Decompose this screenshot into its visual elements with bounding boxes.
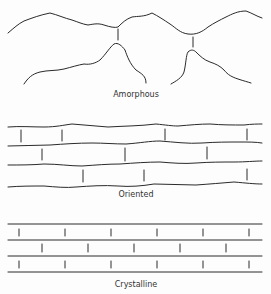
crystalline-chains [8, 224, 262, 272]
oriented-chains [8, 124, 262, 187]
amorphous-chains [8, 11, 262, 84]
polymer-structure-diagram [0, 0, 271, 294]
amorphous-label: Amorphous [76, 90, 196, 99]
crystalline-label: Crystalline [76, 280, 196, 289]
oriented-label: Oriented [76, 190, 196, 199]
